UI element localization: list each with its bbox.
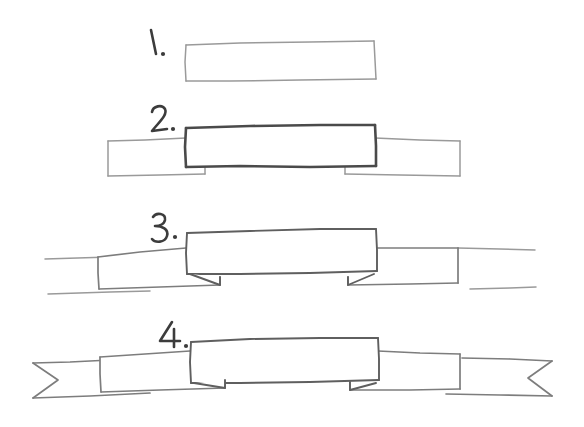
step-2-numeral: 2. — [0, 0, 175, 131]
step-3-fold-right — [348, 274, 374, 285]
step-1-center-panel — [185, 41, 376, 81]
step-1-numeral: 1. — [0, 0, 165, 56]
step-2-group: 2. — [0, 0, 460, 176]
step-3-fold-left — [190, 274, 220, 285]
step-2-center-panel — [185, 125, 376, 167]
step-4-fold-right — [350, 382, 376, 390]
sketch-canvas: 1. 2. — [0, 0, 584, 427]
step-1-group: 1. — [0, 0, 376, 81]
step-4-right-tail — [446, 358, 552, 396]
ribbon-tutorial-illustration: 1. 2. — [0, 0, 584, 427]
step-4-center-panel — [190, 338, 379, 383]
step-3-center-panel — [186, 229, 377, 274]
step-3-right-extensions — [458, 248, 536, 289]
step-3-numeral: 3. — [0, 0, 177, 242]
